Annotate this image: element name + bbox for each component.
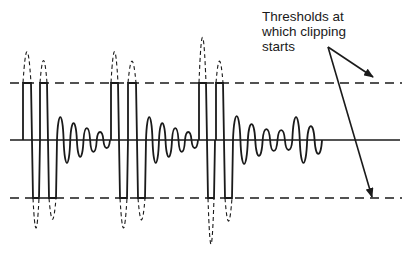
annotation-line-1: Thresholds at (262, 9, 346, 24)
annotation-arrows (328, 47, 373, 197)
annotation-line-3: starts (262, 39, 346, 54)
threshold-annotation: Thresholds at which clipping starts (262, 9, 346, 54)
annotation-line-2: which clipping (262, 24, 346, 39)
clipping-diagram (0, 0, 410, 280)
